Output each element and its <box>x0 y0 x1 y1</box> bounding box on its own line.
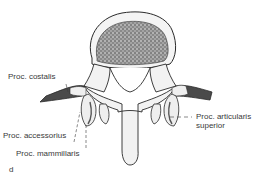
costal-process-right <box>172 85 212 100</box>
label-proc-costalis: Proc. costalis <box>8 72 56 81</box>
label-superior: superior <box>196 121 225 130</box>
panel-letter: d <box>9 165 13 174</box>
label-proc-accessorius: Proc. accessorius <box>3 131 66 140</box>
label-proc-mammillaris: Proc. mammillaris <box>16 149 80 158</box>
vertebral-body <box>90 12 175 69</box>
label-proc-articularis: Proc. articularis <box>196 112 251 121</box>
costal-process-left <box>40 86 86 102</box>
vertebral-arch <box>84 64 176 165</box>
